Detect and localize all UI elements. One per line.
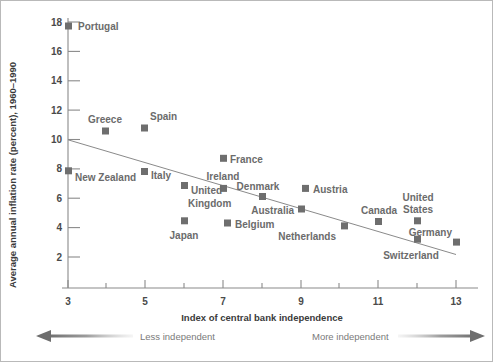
right-arrow-head-icon [470,330,485,342]
label-canada: Canada [361,205,398,216]
y-tick-label: 16 [51,46,63,57]
x-axis-ticks [68,280,456,288]
x-tick-label: 13 [450,296,462,307]
label-united-states-line1: United [402,192,433,203]
label-united-kingdom-line1: United [191,185,222,196]
y-tick-label: 12 [51,105,63,116]
marker-austria[interactable] [302,185,309,192]
label-portugal: Portugal [78,21,119,32]
marker-australia[interactable] [298,206,305,213]
label-italy: Italy [151,170,171,181]
marker-spain[interactable] [141,125,148,132]
marker-canada[interactable] [375,218,382,225]
marker-france[interactable] [220,155,227,162]
data-point-labels: Portugal Greece Spain New Zealand Italy … [75,21,452,261]
y-axis-ticks [68,22,80,257]
x-tick-label: 5 [142,296,148,307]
label-japan: Japan [170,230,199,241]
left-arrow-shaft [48,335,133,338]
marker-united-states[interactable] [414,217,421,224]
less-independent-label: Less independent [140,331,215,342]
y-axis-title: Average annual inflation rate (percent),… [7,62,18,288]
y-tick-label: 8 [56,163,62,174]
label-belgium: Belgium [235,219,275,230]
marker-italy[interactable] [141,168,148,175]
y-tick-label: 4 [56,222,62,233]
label-united-states-line2: States [403,204,433,215]
label-new-zealand: New Zealand [75,172,136,183]
marker-united-kingdom[interactable] [181,182,188,189]
marker-belgium[interactable] [224,220,231,227]
x-axis-tick-labels: 3 5 7 9 11 13 [65,296,462,307]
y-tick-label: 18 [51,17,63,28]
label-netherlands: Netherlands [278,231,336,242]
label-switzerland: Switzerland [383,250,439,261]
y-tick-label: 2 [56,252,62,263]
label-united-kingdom-line2: Kingdom [188,198,231,209]
scatter-plot-svg: Average annual inflation rate (percent),… [0,0,493,362]
left-arrow-head-icon [36,330,51,342]
label-germany: Germany [409,227,453,238]
more-independent-annotation: More independent [312,330,485,342]
marker-new-zealand[interactable] [65,167,72,174]
x-axis-title: Index of central bank independence [181,312,343,323]
y-tick-label: 14 [51,75,63,86]
x-tick-label: 11 [373,296,384,307]
label-denmark: Denmark [237,181,280,192]
marker-greece[interactable] [102,128,109,135]
chart-container: Average annual inflation rate (percent),… [0,0,493,362]
x-tick-label: 9 [298,296,304,307]
more-independent-label: More independent [312,331,389,342]
right-arrow-shaft [398,335,476,338]
marker-denmark[interactable] [259,193,266,200]
label-spain: Spain [150,111,177,122]
label-greece: Greece [88,114,122,125]
x-tick-label: 7 [220,296,226,307]
y-tick-label: 10 [51,134,63,145]
marker-portugal[interactable] [65,23,72,30]
x-tick-label: 3 [65,296,71,307]
label-ireland: Ireland [207,171,240,182]
marker-netherlands[interactable] [341,222,348,229]
label-france: France [230,154,263,165]
y-tick-label: 6 [56,193,62,204]
less-independent-annotation: Less independent [36,330,215,342]
marker-japan[interactable] [181,217,188,224]
label-australia: Australia [251,205,294,216]
y-axis-tick-labels: 18 16 14 12 10 8 6 4 2 [51,17,63,263]
label-austria: Austria [313,184,348,195]
marker-germany[interactable] [453,239,460,246]
